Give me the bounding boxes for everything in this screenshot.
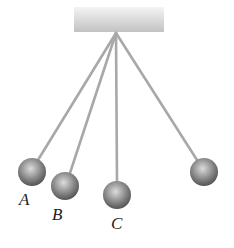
ball-c <box>103 181 131 209</box>
ball-a <box>18 158 46 186</box>
string-b <box>70 33 116 173</box>
support-block <box>74 7 164 32</box>
label-b: B <box>52 206 62 223</box>
pendulum-diagram <box>0 0 234 248</box>
ball-d <box>190 158 218 186</box>
ball-b <box>51 172 79 200</box>
string-d <box>116 33 197 160</box>
pendulum-strings <box>38 33 197 181</box>
label-c: C <box>111 215 122 232</box>
string-c <box>116 33 117 181</box>
string-a <box>38 33 116 160</box>
label-a: A <box>19 191 29 208</box>
